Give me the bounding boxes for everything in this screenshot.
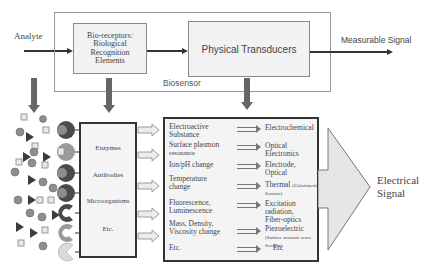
transducer-row: Fluorescence, Luminescence Excitation ra… bbox=[169, 199, 317, 219]
receptor-shapes-illustration bbox=[52, 116, 80, 266]
receptor-icon bbox=[57, 121, 80, 261]
receptor-types-box: Enzymes Antibodies Microorganisms Etc. bbox=[79, 122, 137, 258]
electrical-signal-line-1: Electrical bbox=[377, 174, 419, 187]
transducer-row: Surface plasmon resonance Optical Electr… bbox=[169, 141, 317, 159]
transducer-row: Etc. Etc bbox=[169, 244, 317, 256]
big-output-arrow-icon bbox=[318, 125, 374, 255]
analyte-label: Analyte bbox=[14, 31, 43, 41]
row-output: Thermal bbox=[265, 180, 290, 189]
transducer-label: Physical Transducers bbox=[201, 44, 296, 55]
row-input: Luminescence bbox=[169, 207, 212, 215]
transducer-row: Electroactive Substance Electrochemical bbox=[169, 123, 317, 141]
biosensor-label: Biosensor bbox=[163, 78, 201, 88]
receptor-item-enzymes: Enzymes bbox=[81, 144, 135, 152]
electrical-signal-line-2: Signal bbox=[377, 187, 419, 200]
row-output: Optical Electronics bbox=[265, 142, 317, 158]
output-arrow-line bbox=[310, 51, 388, 53]
row-output: Piezoelectric bbox=[265, 224, 304, 233]
electrical-signal-label: Electrical Signal bbox=[377, 174, 419, 200]
down-arrow-analyte bbox=[28, 78, 40, 113]
hollow-arrow-icon bbox=[138, 124, 159, 242]
receptor-to-transducer-line bbox=[147, 50, 183, 52]
row-input: resonance bbox=[169, 149, 219, 157]
bioreceptor-line-4: Elements bbox=[95, 57, 125, 66]
bioreceptor-box: Bio-receptors: Biological Recognition El… bbox=[73, 23, 147, 74]
row-output: Excitation radiation, bbox=[265, 200, 317, 216]
row-arrow-icon bbox=[237, 145, 257, 150]
row-input: Ion/pH change bbox=[169, 161, 213, 169]
output-arrow-head bbox=[387, 49, 393, 55]
row-arrow-icon bbox=[237, 247, 257, 252]
row-arrow-icon bbox=[237, 127, 257, 132]
row-input: Etc. bbox=[169, 244, 181, 252]
row-input: Substance bbox=[169, 131, 209, 139]
down-arrow-receptor bbox=[103, 78, 115, 113]
row-arrow-icon bbox=[237, 203, 257, 208]
row-input: change bbox=[169, 183, 207, 191]
receptor-item-microorganisms: Microorganisms bbox=[81, 197, 135, 204]
row-arrow-icon bbox=[237, 184, 257, 189]
receptor-item-antibodies: Antibodies bbox=[81, 171, 135, 179]
transducer-row: Ion/pH change Electrode, Optical bbox=[169, 161, 317, 175]
row-arrow-icon bbox=[237, 164, 257, 169]
row-input: Viscosity change bbox=[169, 228, 220, 236]
transducer-box: Physical Transducers bbox=[188, 21, 310, 77]
row-output: Electrochemical bbox=[265, 124, 314, 132]
down-arrow-transducer bbox=[241, 78, 253, 110]
hollow-arrows bbox=[137, 120, 161, 260]
transducer-table: Electroactive Substance Electrochemical … bbox=[163, 117, 319, 262]
row-arrow-icon bbox=[237, 229, 257, 234]
row-input: Surface plasmon bbox=[169, 141, 219, 149]
transducer-row: Temperature change Thermal (Calorimetric… bbox=[169, 175, 317, 195]
transducer-row: Mass, Density, Viscosity change Piezoele… bbox=[169, 220, 317, 240]
receptor-item-etc: Etc. bbox=[81, 225, 135, 233]
row-output: Etc bbox=[273, 244, 283, 252]
measurable-signal-label: Measurable Signal bbox=[341, 35, 411, 45]
